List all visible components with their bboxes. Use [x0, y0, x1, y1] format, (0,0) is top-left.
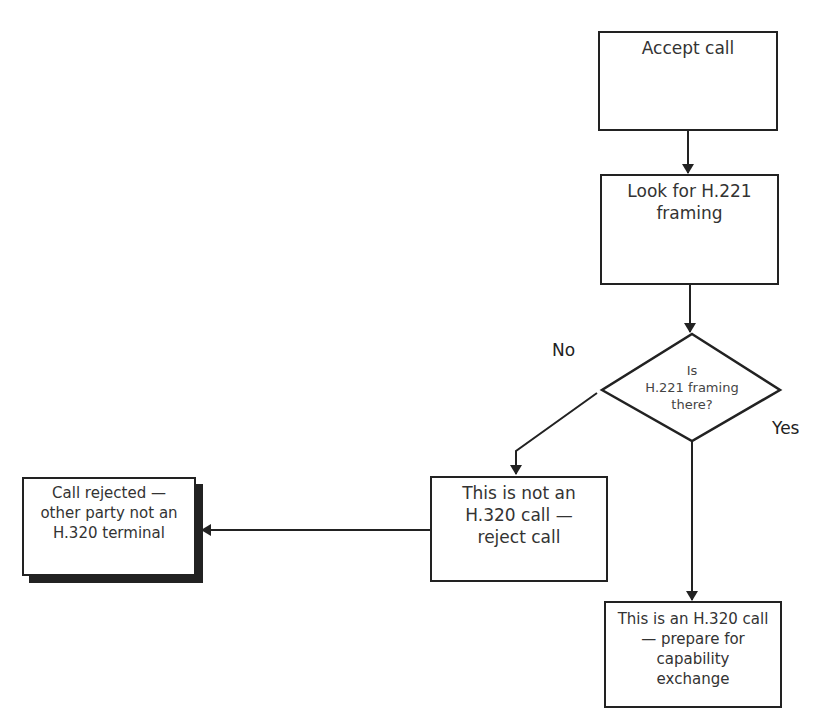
arrow-decision-no	[516, 393, 597, 474]
decision-text-line-1: Is	[627, 362, 757, 379]
node-is-h320-line-1: This is an H.320 call	[606, 609, 780, 629]
decision-text-line-3: there?	[627, 396, 757, 413]
node-call-rejected-line-2: other party not an	[24, 503, 194, 523]
node-is-h320-line-2: — prepare for	[606, 629, 780, 649]
flowchart-canvas: Accept call Look for H.221 framing Is H.…	[0, 0, 832, 725]
node-not-h320-line-2: H.320 call —	[432, 504, 606, 526]
node-call-rejected: Call rejected — other party not an H.320…	[22, 477, 196, 576]
edge-label-yes: Yes	[772, 418, 799, 438]
decision-text: Is H.221 framing there?	[627, 362, 757, 413]
node-look-for-framing-line-2: framing	[602, 202, 777, 224]
node-is-h320: This is an H.320 call — prepare for capa…	[604, 601, 782, 708]
node-not-h320-line-3: reject call	[432, 526, 606, 548]
node-is-h320-line-4: exchange	[606, 669, 780, 689]
node-not-h320: This is not an H.320 call — reject call	[430, 476, 608, 582]
node-call-rejected-line-1: Call rejected —	[24, 483, 194, 503]
decision-text-line-2: H.221 framing	[627, 379, 757, 396]
edge-label-no: No	[552, 340, 575, 360]
node-look-for-framing: Look for H.221 framing	[600, 174, 779, 285]
node-look-for-framing-line-1: Look for H.221	[602, 180, 777, 202]
node-not-h320-line-1: This is not an	[432, 482, 606, 504]
node-is-h320-line-3: capability	[606, 649, 780, 669]
node-accept-call-text: Accept call	[600, 37, 776, 59]
node-call-rejected-line-3: H.320 terminal	[24, 523, 194, 543]
node-accept-call: Accept call	[598, 31, 778, 131]
